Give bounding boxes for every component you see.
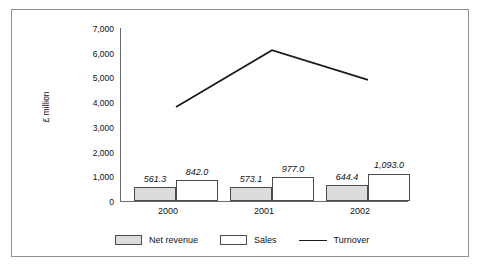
bar-value-net-revenue-2001: 573.1 xyxy=(224,174,278,184)
x-tick-label-2000: 2000 xyxy=(138,206,198,216)
bar-sales-2000 xyxy=(176,180,218,201)
legend-item-net-revenue: Net revenue xyxy=(115,235,198,245)
x-tick-label-2002: 2002 xyxy=(330,206,390,216)
y-tick-label-6000: 6,000 xyxy=(68,49,114,59)
y-tick-label-7000: 7,000 xyxy=(68,24,114,34)
x-tick-label-2001: 2001 xyxy=(234,206,294,216)
x-axis-line xyxy=(120,201,408,202)
bar-net-revenue-2000 xyxy=(134,187,176,201)
legend-item-sales: Sales xyxy=(220,235,277,245)
y-tick-label-2000: 2,000 xyxy=(68,148,114,158)
legend-swatch-sales-icon xyxy=(220,235,247,245)
legend-swatch-net-revenue-icon xyxy=(115,235,142,245)
legend-label-net-revenue: Net revenue xyxy=(149,235,198,245)
chart-legend: Net revenue Sales Turnover xyxy=(115,235,369,245)
y-axis-title: £ million xyxy=(41,67,51,147)
plot-area: £ million 7,000 6,000 5,000 4,000 3,000 … xyxy=(12,10,470,258)
bar-sales-2001 xyxy=(272,177,314,201)
y-tick-label-1000: 1,000 xyxy=(68,172,114,182)
bar-value-sales-2002: 1,093.0 xyxy=(359,160,419,170)
legend-label-sales: Sales xyxy=(254,235,277,245)
y-tick-label-4000: 4,000 xyxy=(68,98,114,108)
chart-frame: £ million 7,000 6,000 5,000 4,000 3,000 … xyxy=(11,9,469,257)
y-tick-label-5000: 5,000 xyxy=(68,73,114,83)
bar-sales-2002 xyxy=(368,174,410,201)
bar-net-revenue-2001 xyxy=(230,187,272,201)
legend-item-turnover: Turnover xyxy=(299,235,370,245)
bar-value-sales-2000: 842.0 xyxy=(170,167,224,177)
bar-value-net-revenue-2002: 644.4 xyxy=(320,172,374,182)
legend-line-turnover-icon xyxy=(299,240,327,241)
bar-net-revenue-2002 xyxy=(326,185,368,201)
y-tick-label-3000: 3,000 xyxy=(68,123,114,133)
bar-value-sales-2001: 977.0 xyxy=(266,164,320,174)
legend-label-turnover: Turnover xyxy=(334,235,370,245)
y-tick-label-0: 0 xyxy=(68,197,114,207)
bars-layer: 561.3 842.0 573.1 977.0 644.4 1,093.0 xyxy=(120,28,408,201)
